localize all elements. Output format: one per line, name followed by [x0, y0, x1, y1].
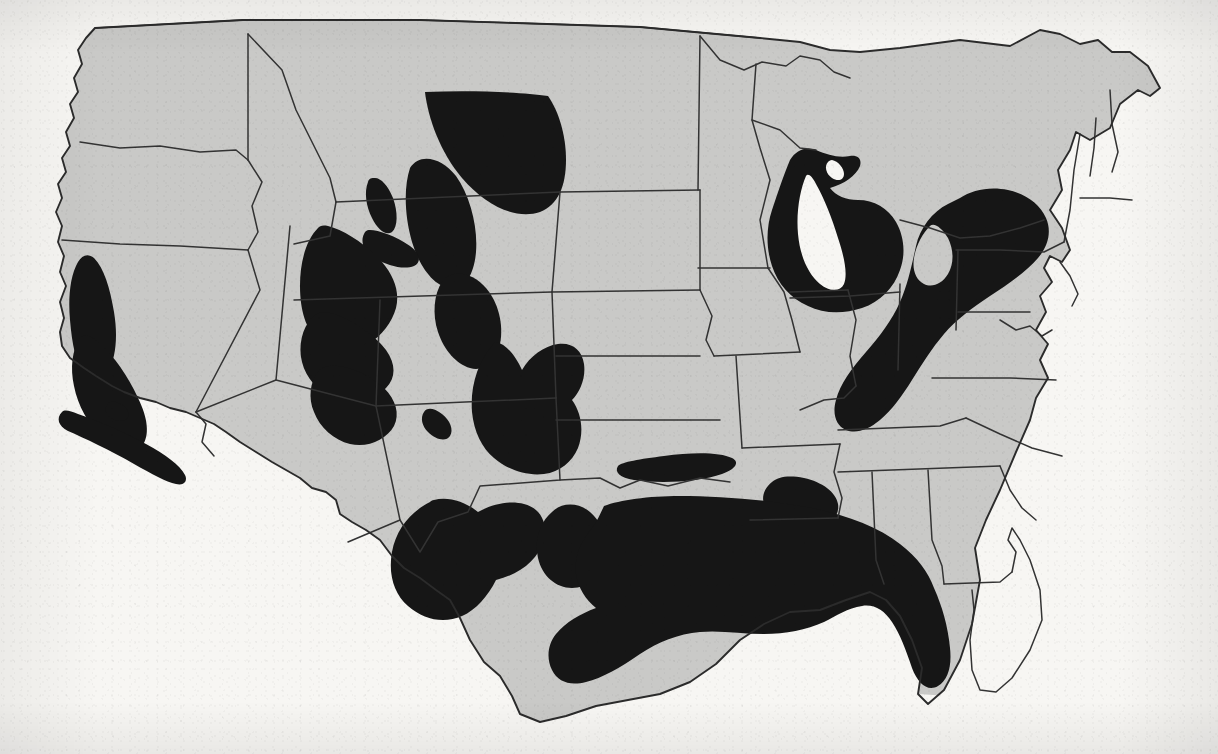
scanned-page: the previous discussion shows which is t… [0, 0, 1218, 754]
us-map [0, 0, 1218, 754]
